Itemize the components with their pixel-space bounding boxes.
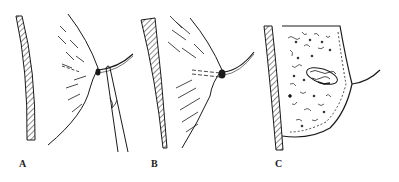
panel-b [141, 16, 254, 148]
breast-outline-a [48, 14, 98, 145]
breast-outline-b [182, 18, 222, 148]
suture-a [98, 54, 133, 70]
panel-c [264, 26, 380, 150]
panel-a [16, 14, 133, 152]
duct-lesion-c [305, 64, 340, 87]
panel-label-b: B [151, 158, 158, 169]
nipple-ligated-b [219, 70, 226, 79]
panel-label-a: A [19, 158, 26, 169]
illustration-drawing [0, 0, 399, 182]
surgical-illustration: A B C [0, 0, 399, 182]
forceps-a [106, 66, 128, 152]
glandular-tissue-c [288, 32, 331, 127]
suture-c [352, 70, 380, 84]
chest-wall-b [141, 18, 167, 148]
panel-label-c: C [275, 158, 282, 169]
chest-wall-a [16, 16, 35, 140]
chest-wall-c [264, 26, 283, 150]
duct-tract-b [192, 70, 220, 77]
